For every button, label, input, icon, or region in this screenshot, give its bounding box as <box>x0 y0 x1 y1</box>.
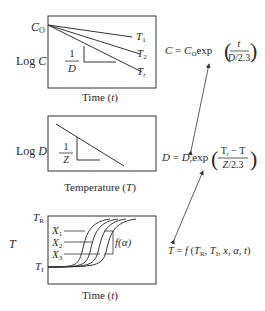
process-diagram: CO Log C 1 D T1 T2 Tr Time (t) Log D 1 Z… <box>0 0 265 311</box>
label-ti-bottom: TI <box>35 260 44 274</box>
panel3-ylabel: T <box>9 237 17 251</box>
eq2-close-paren: ) <box>250 146 257 171</box>
eq1-close-paren: ) <box>250 38 257 63</box>
slope-numerator: 1 <box>69 47 75 59</box>
slope-denominator: D <box>67 62 76 74</box>
panel3-frame <box>48 216 156 284</box>
eq2-denominator: Z/2.3 <box>223 159 244 170</box>
label-x3: X3 <box>51 248 63 262</box>
eq1-denominator: D/2.3 <box>227 52 251 63</box>
eq3-text: T = f (TR, TI, x, α, t) <box>168 245 251 258</box>
panel1-xlabel: Time (t) <box>82 91 118 104</box>
eq2-open-paren: ( <box>211 146 218 171</box>
eq1-lhs: C = COexp <box>165 44 213 58</box>
f-alpha-label: f(α) <box>115 236 131 249</box>
curve-t2 <box>48 25 140 54</box>
panel3-xlabel: Time (t) <box>82 289 118 302</box>
panel1-ylabel: Log C <box>16 54 47 68</box>
slope-denominator-z: Z <box>63 154 69 165</box>
label-t2: T2 <box>137 47 147 61</box>
panel-log-d-vs-temperature: Log D 1 Z Temperature (T) <box>16 116 156 194</box>
label-tr-top: TR <box>33 211 44 225</box>
equation-c: C = COexp ( t D/2.3 ) <box>165 38 257 63</box>
panel2-ylabel: Log D <box>16 144 47 158</box>
equation-d: D = Drexp ( Tr − T Z/2.3 ) <box>161 145 257 171</box>
arrow-eq1-eq2 <box>191 64 209 151</box>
label-t1: T1 <box>136 30 146 44</box>
eq2-lhs: D = Drexp <box>161 151 209 165</box>
slope-triangle <box>84 46 116 62</box>
origin-label: CO <box>31 20 45 35</box>
panel2-xlabel: Temperature (T) <box>64 181 136 194</box>
eq1-numerator: t <box>238 38 241 49</box>
panel-log-c-vs-time: CO Log C 1 D T1 T2 Tr Time (t) <box>16 16 156 104</box>
panel-t-vs-time: TR TI T X1 X2 X3 f(α) Time (t) <box>9 211 156 302</box>
equation-t: T = f (TR, TI, x, α, t) <box>168 245 251 258</box>
slope-numerator-z: 1 <box>64 141 69 152</box>
eq2-numerator: Tr − T <box>221 145 246 157</box>
label-tr: Tr <box>137 65 146 79</box>
arrow-eq2-eq3 <box>174 171 203 240</box>
